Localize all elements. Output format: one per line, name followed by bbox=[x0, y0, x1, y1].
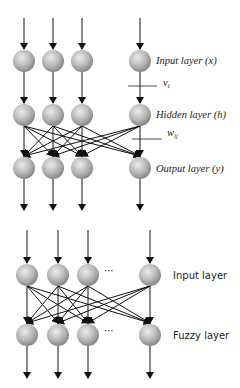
hidden-node bbox=[129, 104, 151, 126]
w-weight-label: wij bbox=[167, 127, 178, 140]
hidden-layer-label: Hidden layer (h) bbox=[155, 109, 226, 121]
output-node bbox=[71, 157, 93, 179]
bottom-input-layer-label: Input layer bbox=[173, 270, 228, 281]
fuzzy-node bbox=[77, 324, 99, 346]
bottom-network-diagram bbox=[16, 230, 161, 378]
hidden-node bbox=[42, 104, 64, 126]
output-node bbox=[13, 157, 35, 179]
input-node bbox=[42, 50, 64, 72]
input-node bbox=[13, 50, 35, 72]
fuzzy-node bbox=[16, 324, 38, 346]
fuzzy-node bbox=[139, 324, 161, 346]
hidden-node bbox=[13, 104, 35, 126]
output-node bbox=[129, 157, 151, 179]
fuzzy-layer-label: Fuzzy layer bbox=[173, 330, 230, 341]
fuzzy-node bbox=[47, 324, 69, 346]
top-network-diagram bbox=[13, 18, 151, 210]
output-layer-label: Output layer (y) bbox=[156, 163, 224, 175]
input-node bbox=[47, 264, 69, 286]
fuzzy-ellipsis: ··· bbox=[104, 325, 114, 336]
neural-network-diagrams: Input layer (x) Hidden layer (h) Output … bbox=[0, 0, 240, 388]
input-node bbox=[77, 264, 99, 286]
input-node bbox=[139, 264, 161, 286]
input-ellipsis: ··· bbox=[104, 265, 114, 276]
v-weight-label: vi bbox=[163, 77, 170, 90]
hidden-node bbox=[71, 104, 93, 126]
input-node bbox=[71, 50, 93, 72]
input-node bbox=[16, 264, 38, 286]
input-layer-label: Input layer (x) bbox=[155, 55, 217, 67]
output-node bbox=[42, 157, 64, 179]
input-node bbox=[129, 50, 151, 72]
